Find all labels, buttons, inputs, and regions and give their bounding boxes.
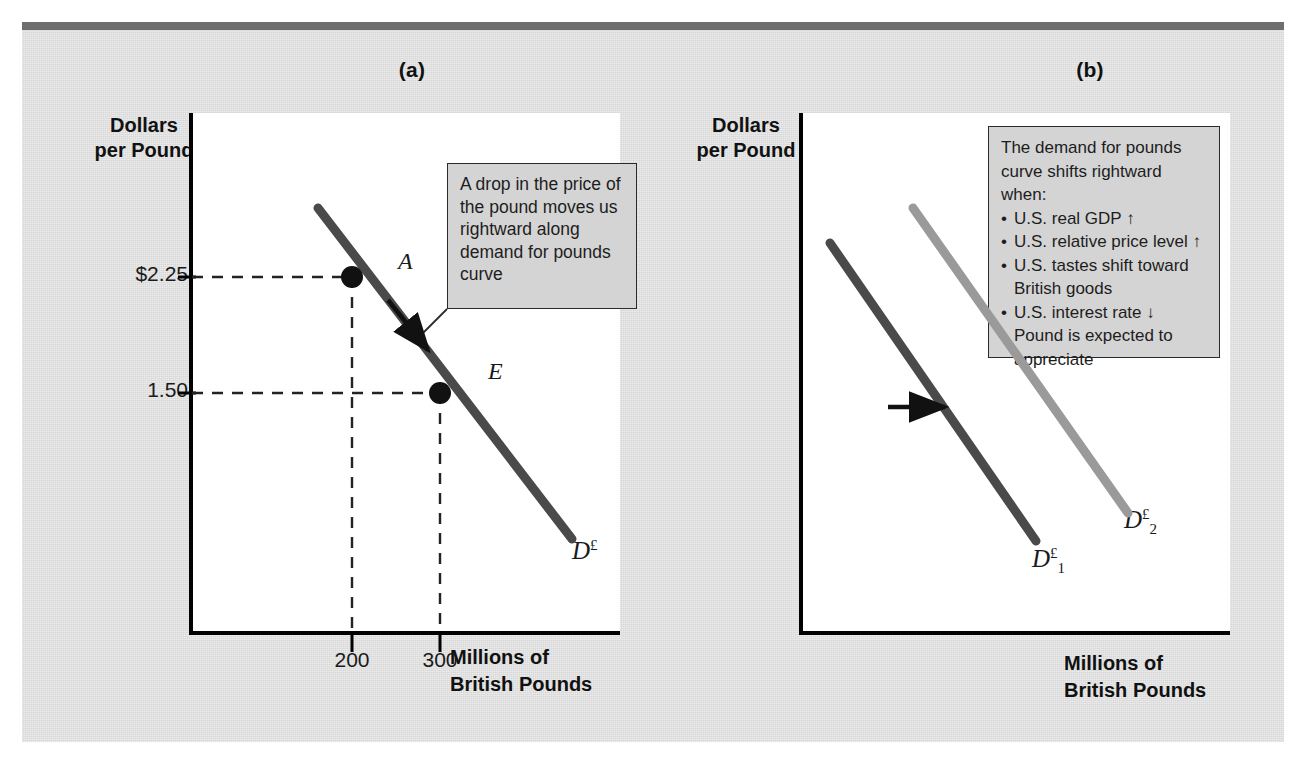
panel-b-callout-bullet-1: U.S. real GDP xyxy=(1001,207,1208,231)
panel-b-callout-bullet-3: U.S. tastes shift toward British goods xyxy=(1001,254,1208,301)
panel-b-curve1-letter: D xyxy=(1032,545,1050,572)
panel-b-callout-bullet-4: U.S. interest rate xyxy=(1001,301,1208,325)
panel-b-callout-intro: The demand for pounds curve shifts right… xyxy=(1001,136,1208,207)
figure-root: (a) Dollars per Pound Millions of Britis… xyxy=(0,0,1306,774)
bullet-text: U.S. interest rate xyxy=(1014,303,1146,322)
arrow-up-icon xyxy=(1193,232,1202,251)
panel-b-curve2-subscript: 2 xyxy=(1150,521,1158,537)
panel-b-callout-box: The demand for pounds curve shifts right… xyxy=(988,126,1220,358)
panel-b-curve2-label: D£2 xyxy=(1124,506,1157,538)
panel-b-callout-list: U.S. real GDP U.S. relative price level … xyxy=(1001,207,1208,372)
panel-b-caption: (b) xyxy=(1030,58,1150,82)
panel-b-curve2-superscript: £ xyxy=(1142,506,1150,522)
bullet-text: U.S. relative price level xyxy=(1014,232,1193,251)
panel-a-callout-box: A drop in the price of the pound moves u… xyxy=(447,163,637,309)
panel-b-curve1-superscript: £ xyxy=(1050,545,1058,561)
panel-a-y-tick-150: 1.50 xyxy=(84,378,188,402)
arrow-down-icon xyxy=(1146,303,1155,322)
panel-b-callout-bullet-5: Pound is expected to appreciate xyxy=(1001,324,1208,371)
panel-a-curve-superscript: £ xyxy=(590,537,598,553)
panel-a-curve-label: D£ xyxy=(572,537,598,565)
arrow-up-icon xyxy=(1126,209,1135,228)
panel-a-x-tick-200: 200 xyxy=(322,648,382,672)
panel-a-x-axis-title: Millions of British Pounds xyxy=(450,644,670,698)
panel-a-point-label-A: A xyxy=(398,248,413,275)
panel-a-curve-letter: D xyxy=(572,537,590,564)
panel-a-caption: (a) xyxy=(352,58,472,82)
panel-b-curve2-letter: D xyxy=(1124,506,1142,533)
panel-b-x-axis-title: Millions of British Pounds xyxy=(1064,650,1284,704)
panel-b-curve1-subscript: 1 xyxy=(1058,560,1066,576)
panel-b-callout-bullet-2: U.S. relative price level xyxy=(1001,230,1208,254)
panel-a-x-tick-300: 300 xyxy=(410,648,470,672)
panel-b-y-axis-title: Dollars per Pound xyxy=(676,113,816,163)
panel-b-curve1-label: D£1 xyxy=(1032,545,1065,577)
bullet-text: U.S. real GDP xyxy=(1014,209,1126,228)
panel-a-y-tick-225: $2.25 xyxy=(84,262,188,286)
panel-a-point-label-E: E xyxy=(488,358,503,385)
